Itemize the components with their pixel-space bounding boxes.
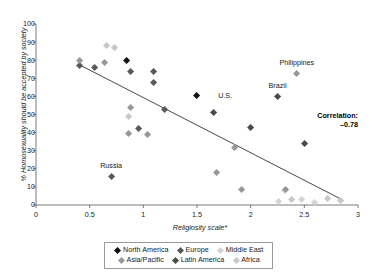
legend-row: North AmericaEuropeMiddle East: [110, 245, 267, 255]
legend-item-label: Latin America: [180, 255, 225, 265]
point-label: U.S.: [218, 92, 232, 100]
legend-item-north-america[interactable]: North America: [114, 245, 169, 255]
scatter-chart: % Homosexuality should be accepted by so…: [0, 0, 375, 280]
legend-item-label: Africa: [240, 255, 259, 265]
legend-item-africa[interactable]: Africa: [232, 255, 259, 265]
legend-marker-icon: [177, 246, 185, 255]
correlation-value: –0.78: [300, 121, 358, 130]
legend-item-latin-america[interactable]: Latin America: [172, 255, 225, 265]
legend-item-europe[interactable]: Europe: [177, 245, 209, 255]
legend-marker-icon: [114, 246, 122, 255]
legend-item-label: Middle East: [225, 245, 264, 255]
legend-item-middle-east[interactable]: Middle East: [217, 245, 264, 255]
legend-marker-icon: [118, 256, 126, 265]
legend-row: Asia/PacificLatin AmericaAfrica: [110, 255, 267, 265]
legend-item-label: Asia/Pacific: [126, 255, 164, 265]
point-label: Russia: [100, 162, 122, 170]
point-label: Philippines: [279, 59, 314, 67]
correlation-annotation: Correlation: –0.78: [300, 112, 358, 129]
chart-axes: [0, 0, 375, 280]
point-label: Brazil: [269, 82, 287, 90]
legend-item-label: North America: [122, 245, 169, 255]
legend-marker-icon: [217, 246, 225, 255]
legend-marker-icon: [232, 256, 240, 265]
chart-legend: North AmericaEuropeMiddle EastAsia/Pacif…: [104, 242, 273, 269]
legend-marker-icon: [172, 256, 180, 265]
legend-item-label: Europe: [185, 245, 209, 255]
legend-item-asia-pacific[interactable]: Asia/Pacific: [118, 255, 164, 265]
